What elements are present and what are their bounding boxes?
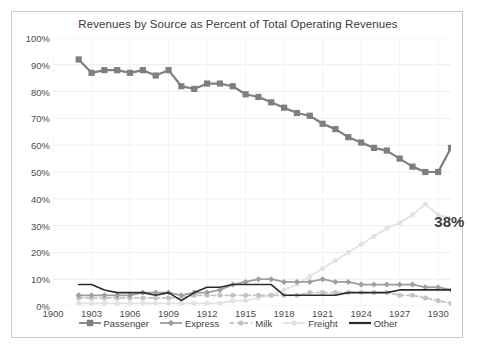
chart-page: Revenues by Source as Percent of Total O… [0,0,480,360]
data-point-freight [217,301,222,306]
data-point-freight [102,301,107,306]
data-point-freight [192,301,197,306]
data-point-freight [346,250,351,255]
legend-swatch-milk [230,318,252,328]
data-point-freight [205,301,210,306]
y-axis-tick: 100% [14,33,50,44]
data-point-passenger [230,83,236,89]
data-point-freight [371,234,376,239]
data-point-express [307,279,313,285]
data-point-freight [282,287,287,292]
data-point-freight [166,301,171,306]
y-axis-tick: 40% [14,193,50,204]
data-point-milk [217,293,222,298]
data-point-freight [359,242,364,247]
data-point-freight [230,298,235,303]
data-point-express [281,279,287,285]
data-point-milk [140,295,145,300]
data-point-freight [89,301,94,306]
y-axis-labels: 100%90%80%70%60%50%40%30%20%10%0% [12,38,50,306]
data-point-express [255,276,261,282]
data-point-passenger [448,145,451,151]
data-point-express [332,279,338,285]
data-point-milk [153,295,158,300]
y-axis-tick: 90% [14,59,50,70]
y-axis-tick: 60% [14,140,50,151]
data-point-passenger [268,99,274,105]
data-point-milk [256,293,261,298]
data-point-freight [128,301,133,306]
y-axis-tick: 50% [14,167,50,178]
data-point-passenger [140,67,146,73]
data-point-passenger [191,86,197,92]
data-point-milk [166,295,171,300]
y-axis-tick: 30% [14,220,50,231]
data-point-milk [230,293,235,298]
data-point-express [384,282,390,288]
data-point-freight [410,212,415,217]
chart-title: Revenues by Source as Percent of Total O… [12,18,464,30]
data-point-passenger [422,169,428,175]
data-point-freight [115,301,120,306]
data-point-milk [410,293,415,298]
data-point-passenger [101,67,107,73]
data-point-passenger [165,67,171,73]
data-point-milk [320,290,325,295]
series-line-freight [79,204,451,303]
data-point-passenger [153,72,159,78]
data-point-passenger [435,169,441,175]
data-point-milk [397,293,402,298]
data-point-milk [243,293,248,298]
data-point-freight [397,220,402,225]
legend-item-freight[interactable]: Freight [283,318,338,329]
y-axis-tick: 10% [14,274,50,285]
data-point-milk [307,290,312,295]
data-point-milk [449,301,452,306]
data-point-express [397,282,403,288]
legend-swatch-express [160,318,182,328]
legend-label-passenger: Passenger [104,318,149,329]
data-point-express [268,276,274,282]
legend-label-express: Express [185,318,219,329]
data-point-freight [76,301,81,306]
data-point-freight [140,301,145,306]
data-point-passenger [127,70,133,76]
legend-label-freight: Freight [308,318,338,329]
y-axis-tick: 70% [14,113,50,124]
data-point-freight [423,202,428,207]
y-axis-tick: 20% [14,247,50,258]
data-point-passenger [242,91,248,97]
legend-item-passenger[interactable]: Passenger [79,318,149,329]
data-point-passenger [281,105,287,111]
data-point-freight [179,301,184,306]
data-point-express [409,282,415,288]
data-point-freight [153,301,158,306]
data-point-passenger [204,80,210,86]
data-point-passenger [217,80,223,86]
data-point-express [371,282,377,288]
legend-item-other[interactable]: Other [349,318,398,329]
data-point-passenger [114,67,120,73]
data-point-milk [423,295,428,300]
data-point-passenger [320,121,326,127]
bottom-caption [14,349,314,360]
legend-swatch-passenger [79,318,101,328]
legend-swatch-freight [283,318,305,328]
legend-item-milk[interactable]: Milk [230,318,272,329]
data-point-passenger [345,134,351,140]
data-point-freight [320,266,325,271]
data-point-milk [436,298,441,303]
data-point-passenger [358,139,364,145]
legend-label-other: Other [374,318,398,329]
data-point-freight [384,226,389,231]
data-point-passenger [409,164,415,170]
data-point-freight [307,274,312,279]
legend-item-express[interactable]: Express [160,318,219,329]
data-point-passenger [294,110,300,116]
data-point-milk [269,293,274,298]
data-point-freight [333,258,338,263]
data-point-passenger [384,147,390,153]
data-point-passenger [307,113,313,119]
plot-area [53,38,451,306]
data-point-passenger [397,156,403,162]
